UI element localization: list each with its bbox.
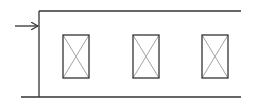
crossed-box: [63, 35, 89, 78]
crossed-boxes-group: [63, 35, 228, 78]
diagram-canvas: [0, 0, 253, 101]
crossed-box: [133, 35, 159, 78]
crossed-box: [202, 35, 228, 78]
